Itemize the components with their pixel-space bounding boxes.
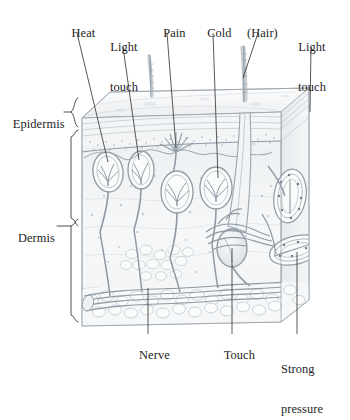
label-light-touch-right-line1: Light — [298, 41, 326, 54]
label-dermis: Dermis — [0, 219, 55, 259]
label-touch: Touch — [211, 336, 255, 376]
label-hair: (Hair) — [234, 14, 278, 54]
label-light-touch-right-line2: touch — [298, 81, 326, 94]
subcutaneous-fat-layer — [80, 282, 312, 330]
label-light-touch-right: Light touch — [298, 14, 326, 121]
label-strong-pressure-line1: Strong — [281, 363, 323, 376]
label-heat: Heat — [59, 14, 96, 54]
bracket-dermis-lower — [71, 219, 78, 322]
label-strong-pressure-line2: pressure — [281, 403, 323, 416]
label-epidermis: Epidermis — [0, 105, 62, 145]
label-light-touch-left: Light touch — [110, 14, 138, 121]
label-light-touch-left-line2: touch — [110, 81, 138, 94]
bracket-dermis-upper — [71, 130, 78, 226]
label-light-touch-left-line1: Light — [110, 41, 138, 54]
label-cold: Cold — [194, 14, 231, 54]
bracket-epidermis — [71, 98, 78, 127]
label-pain: Pain — [150, 14, 185, 54]
label-strong-pressure: Strong pressure — [281, 336, 323, 420]
label-nerve: Nerve — [126, 336, 170, 376]
hair-follicle-small — [149, 56, 154, 96]
